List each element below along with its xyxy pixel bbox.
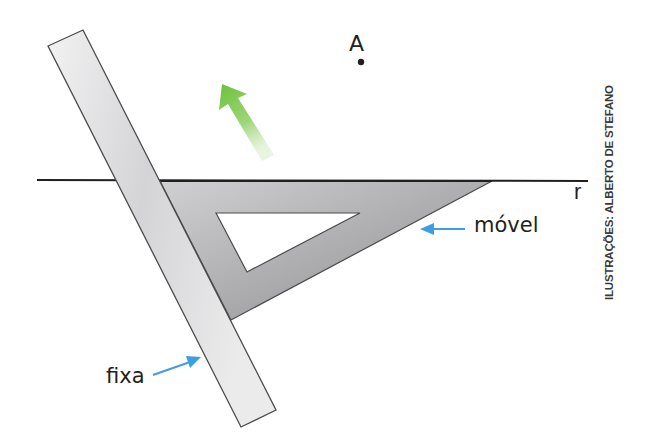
diagram-canvas: A r móvel fixa ILUSTRAÇÕES: ALBERTO DE S… [0, 0, 647, 447]
point-a-dot [358, 59, 364, 65]
motion-arrow-icon [219, 84, 274, 161]
movel-label: móvel [474, 213, 539, 237]
fixa-label: fixa [106, 364, 145, 388]
pointer-arrow-movel-icon [420, 223, 465, 235]
point-a-label: A [349, 31, 364, 56]
diagram-svg [0, 0, 647, 447]
pointer-arrow-fixa-icon [153, 356, 201, 375]
line-r-label: r [574, 179, 581, 205]
ruler [48, 30, 276, 427]
illustration-credit: ILUSTRAÇÕES: ALBERTO DE STEFANO [603, 85, 615, 300]
